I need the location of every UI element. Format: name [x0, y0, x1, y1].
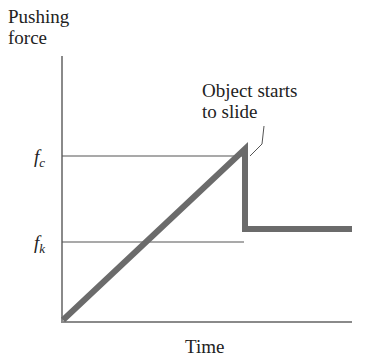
x-axis-label: Time	[185, 336, 224, 357]
y-axis-label: Pushing force	[8, 6, 69, 48]
annotation-leader-line	[250, 126, 264, 156]
slide-annotation: Object starts to slide	[202, 80, 298, 122]
friction-diagram	[0, 0, 376, 360]
fc-label: fc	[34, 146, 45, 169]
fk-label: fk	[34, 232, 45, 255]
force-curve	[63, 149, 352, 320]
